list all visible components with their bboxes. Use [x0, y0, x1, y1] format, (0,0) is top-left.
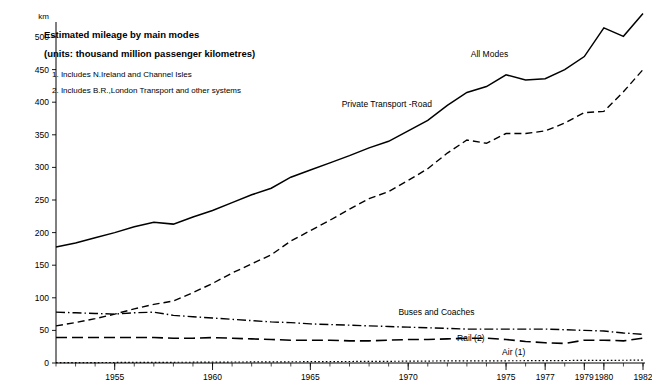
- axes: 050100150200250300350400450500km19551960…: [35, 12, 652, 382]
- series-label-buses-and-coaches: Buses and Coaches: [398, 307, 474, 317]
- chart-text-block: Estimated mileage by main modes(units: t…: [44, 29, 255, 95]
- chart-container: 050100150200250300350400450500km19551960…: [0, 0, 652, 387]
- series-label-rail-2: Rail (2): [457, 333, 485, 343]
- x-tick-label: 1977: [536, 372, 555, 382]
- y-tick-label: 400: [35, 97, 49, 107]
- series-line-rail-2: [56, 338, 643, 344]
- x-tick-label: 1982: [634, 372, 652, 382]
- series-label-all-modes: All Modes: [471, 49, 508, 59]
- chart-subtitle: (units: thousand million passenger kilom…: [44, 48, 255, 59]
- chart-note-2: 2. Includes B.R.,London Transport and ot…: [52, 86, 241, 95]
- series-labels: All ModesPrivate Transport -RoadBuses an…: [342, 49, 526, 358]
- y-tick-label: 200: [35, 228, 49, 238]
- x-tick-label: 1965: [301, 372, 320, 382]
- y-tick-label: 100: [35, 293, 49, 303]
- y-tick-label: 450: [35, 65, 49, 75]
- x-tick-label: 1955: [105, 372, 124, 382]
- y-tick-label: 0: [44, 358, 49, 368]
- chart-note-1: 1. Includes N.Ireland and Channel Isles: [52, 70, 192, 79]
- y-tick-label: 150: [35, 260, 49, 270]
- series-label-air-1: Air (1): [502, 347, 525, 357]
- line-chart-svg: 050100150200250300350400450500km19551960…: [0, 0, 652, 387]
- chart-title: Estimated mileage by main modes: [44, 29, 199, 40]
- x-tick-label: 1975: [497, 372, 516, 382]
- series-label-private-transport-road: Private Transport -Road: [342, 99, 433, 109]
- x-tick-label: 1960: [203, 372, 222, 382]
- x-tick-label: 1980: [594, 372, 613, 382]
- x-tick-label: 1970: [399, 372, 418, 382]
- y-tick-label: 350: [35, 130, 49, 140]
- y-axis-unit-label: km: [38, 12, 49, 21]
- y-tick-label: 50: [40, 325, 50, 335]
- x-tick-label: 1979: [575, 372, 594, 382]
- series-line-buses-and-coaches: [56, 312, 643, 334]
- y-tick-label: 250: [35, 195, 49, 205]
- y-tick-label: 300: [35, 162, 49, 172]
- series-lines: [56, 14, 643, 363]
- series-line-air-1: [56, 360, 643, 363]
